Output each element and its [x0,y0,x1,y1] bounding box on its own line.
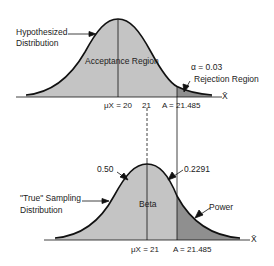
rejection-region-label: Rejection Region [194,74,259,84]
top-critical-label: A = 21.485 [162,101,201,110]
top-mean-label: μX = 20 [104,101,133,110]
tick-21-label: 21 [142,101,151,110]
bottom-distribution-label-1: "True" Sampling [20,193,81,203]
bottom-axis-label: X̄ [251,234,257,244]
bottom-distribution-label-2: Distribution [20,205,63,215]
left-annotation-050: 0.50 [97,164,114,174]
hypothesis-power-diagram: Hypothesized Distribution Acceptance Reg… [0,0,274,266]
power-label: Power [209,202,233,212]
top-distribution-label-2: Distribution [16,38,59,48]
alpha-label: α = 0.03 [191,62,222,72]
beta-label: Beta [139,199,157,209]
acceptance-region-label: Acceptance Region [85,56,159,66]
top-distribution-label-1: Hypothesized [16,27,68,37]
bottom-mean-label: μX = 21 [131,245,160,254]
bottom-critical-label: A = 21.485 [173,245,212,254]
top-axis-label: X̄ [222,91,228,101]
right-annotation-02291: 0.2291 [184,164,210,174]
